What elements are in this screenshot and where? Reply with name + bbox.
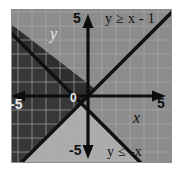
inequality-graph-screenshot: y ≥ x - 1 y ≤ -x 5 -5 -5 5 y x 0 xyxy=(0,0,183,175)
x-axis-tick-label-positive: 5 xyxy=(157,96,165,110)
y-axis-variable-label: y xyxy=(50,26,57,42)
graph-canvas xyxy=(11,9,172,163)
origin-label: 0 xyxy=(70,92,77,104)
y-axis-tick-label-positive: 5 xyxy=(73,11,81,25)
coordinate-plane xyxy=(11,9,172,163)
inequality-label-top: y ≥ x - 1 xyxy=(105,12,155,26)
y-axis-tick-label-negative: -5 xyxy=(69,143,81,157)
inequality-label-bottom: y ≤ -x xyxy=(107,145,142,159)
x-axis-variable-label: x xyxy=(133,110,140,126)
x-axis-tick-label-negative: -5 xyxy=(10,97,22,111)
